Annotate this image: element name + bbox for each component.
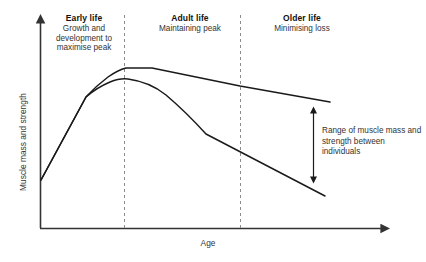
- y-axis-label: Muscle mass and strength: [18, 72, 28, 212]
- stage-label-early: Early life Growth and development to max…: [44, 13, 124, 53]
- stage-label-older: Older life Minimising loss: [252, 13, 352, 34]
- stage-subtitle-older: Minimising loss: [252, 24, 352, 34]
- x-axis-label: Age: [168, 238, 248, 248]
- stage-label-adult: Adult life Maintaining peak: [140, 13, 240, 34]
- range-annotation-text: Range of muscle mass and strength betwee…: [322, 126, 424, 158]
- stage-subtitle-adult: Maintaining peak: [140, 24, 240, 34]
- stage-title-early: Early life: [44, 13, 124, 23]
- stage-title-adult: Adult life: [140, 13, 240, 23]
- stage-title-older: Older life: [252, 13, 352, 23]
- stage-subtitle-early: Growth and development to maximise peak: [44, 24, 124, 53]
- curve-lower-trajectory: [41, 79, 325, 196]
- life-course-muscle-chart: Early life Growth and development to max…: [0, 0, 426, 262]
- curve-upper-trajectory: [41, 68, 330, 180]
